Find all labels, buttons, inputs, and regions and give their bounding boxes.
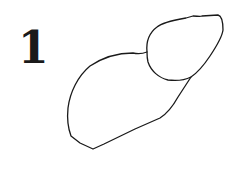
body-shape xyxy=(68,52,191,149)
outline-drawing xyxy=(0,0,235,175)
head-shape xyxy=(147,15,223,80)
